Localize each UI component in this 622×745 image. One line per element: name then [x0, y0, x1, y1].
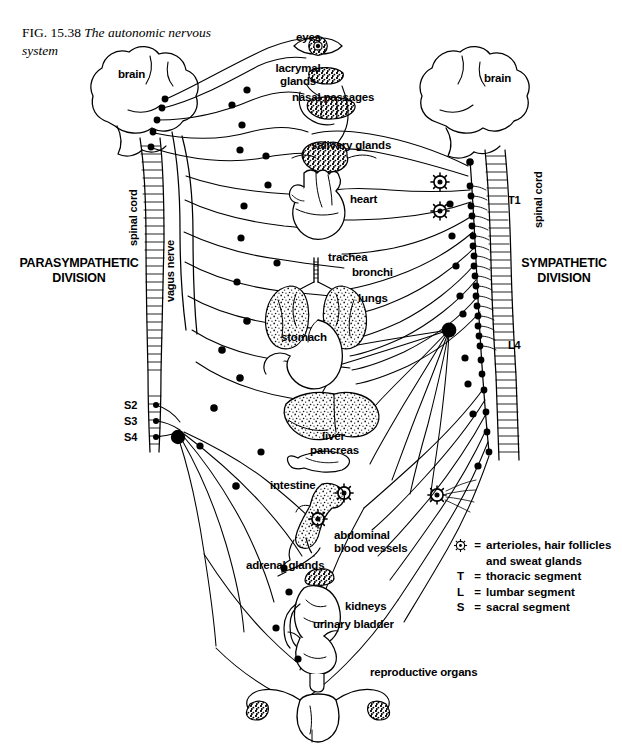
legend-equals: =	[472, 538, 486, 554]
legend-symbol-T: T	[452, 569, 472, 584]
salivary-glands-label: salivary glands	[311, 139, 391, 152]
spinal-cord-left-label: spinal cord	[127, 190, 139, 246]
abdominal-blood-vessels-label: abdominal blood vessels	[334, 529, 407, 555]
legend-symbol-star	[452, 538, 472, 554]
star-wheel-icon	[335, 484, 353, 502]
kidneys-label: kidneys	[345, 600, 386, 613]
reproductive-organs-label: reproductive organs	[370, 666, 477, 679]
legend-symbol-L: L	[452, 585, 472, 600]
lacrymal-glands-label: lacrymal glands	[265, 62, 331, 88]
celiac-ganglion	[442, 323, 457, 338]
pancreas-label: pancreas	[310, 444, 359, 457]
sympathetic-division-line1: SYMPATHETIC	[512, 256, 616, 271]
legend: = arterioles, hair follicles and sweat g…	[452, 538, 614, 615]
stomach-label: stomach	[281, 331, 327, 344]
lacrymal-glands-line1: lacrymal	[265, 62, 331, 75]
legend-row: = arterioles, hair follicles	[452, 538, 614, 554]
segment-marker-S3: S3	[124, 415, 137, 427]
bronchi-label: bronchi	[352, 266, 393, 279]
figure-number: 15.38	[51, 25, 81, 40]
legend-row: T = thoracic segment	[452, 569, 614, 584]
eyes-label: eyes	[296, 31, 321, 44]
legend-symbol-S: S	[452, 600, 472, 615]
star-wheel-icon	[431, 173, 449, 191]
figure-number-prefix: FIG.	[22, 25, 47, 40]
figure-page: FIG. 15.38 The autonomic nervous system …	[0, 0, 622, 745]
sympathetic-division-line2: DIVISION	[512, 271, 616, 286]
legend-text: and sweat glands	[486, 554, 614, 569]
trachea-label: trachea	[328, 251, 368, 264]
pelvic-ganglion	[171, 430, 185, 444]
spinal-cord-right-label: spinal cord	[532, 172, 544, 228]
legend-text: thoracic segment	[486, 569, 614, 584]
legend-text: sacral segment	[486, 600, 614, 615]
legend-row: L = lumbar segment	[452, 585, 614, 600]
segment-marker-L4: L4	[508, 339, 520, 351]
urinary-bladder-label: urinary bladder	[313, 618, 394, 631]
segment-marker-S4: S4	[124, 431, 137, 443]
parasympathetic-division-line1: PARASYMPATHETIC	[14, 256, 144, 271]
parasympathetic-division-line2: DIVISION	[14, 271, 144, 286]
adrenal-glands-label: adrenal glands	[246, 559, 324, 572]
legend-row: and sweat glands	[452, 554, 614, 569]
abdominal-blood-vessels-line2: blood vessels	[334, 542, 407, 555]
abdominal-blood-vessels-line1: abdominal	[334, 529, 407, 542]
legend-row: S = sacral segment	[452, 600, 614, 615]
brain-left-label: brain	[118, 68, 145, 81]
legend-symbol	[452, 554, 472, 569]
segment-marker-T1: T1	[508, 194, 520, 206]
autonomic-nervous-system-diagram	[0, 0, 622, 745]
parasympathetic-division-label: PARASYMPATHETIC DIVISION	[14, 256, 144, 287]
liver-label: liver	[322, 430, 345, 443]
nasal-passages-label: nasal passages	[292, 91, 374, 104]
star-wheel-icon	[428, 486, 446, 504]
lacrymal-glands-line2: glands	[265, 75, 331, 88]
heart-label: heart	[350, 193, 377, 206]
brain-right-label: brain	[484, 72, 511, 85]
legend-text: lumbar segment	[486, 585, 614, 600]
figure-caption: FIG. 15.38 The autonomic nervous system	[22, 24, 232, 59]
legend-equals: =	[472, 585, 486, 600]
vagus-nerve-label: vagus nerve	[164, 240, 176, 302]
lungs-label: lungs	[358, 292, 388, 305]
segment-marker-S2: S2	[124, 399, 137, 411]
legend-text: arterioles, hair follicles	[486, 538, 614, 554]
star-wheel-icon	[453, 538, 468, 553]
legend-equals: =	[472, 600, 486, 615]
legend-equals: =	[472, 569, 486, 584]
legend-equals	[472, 554, 486, 569]
intestine-label: intestine	[270, 479, 316, 492]
star-wheel-icon	[309, 510, 327, 528]
star-wheel-icon	[431, 202, 449, 220]
sympathetic-division-label: SYMPATHETIC DIVISION	[512, 256, 616, 287]
